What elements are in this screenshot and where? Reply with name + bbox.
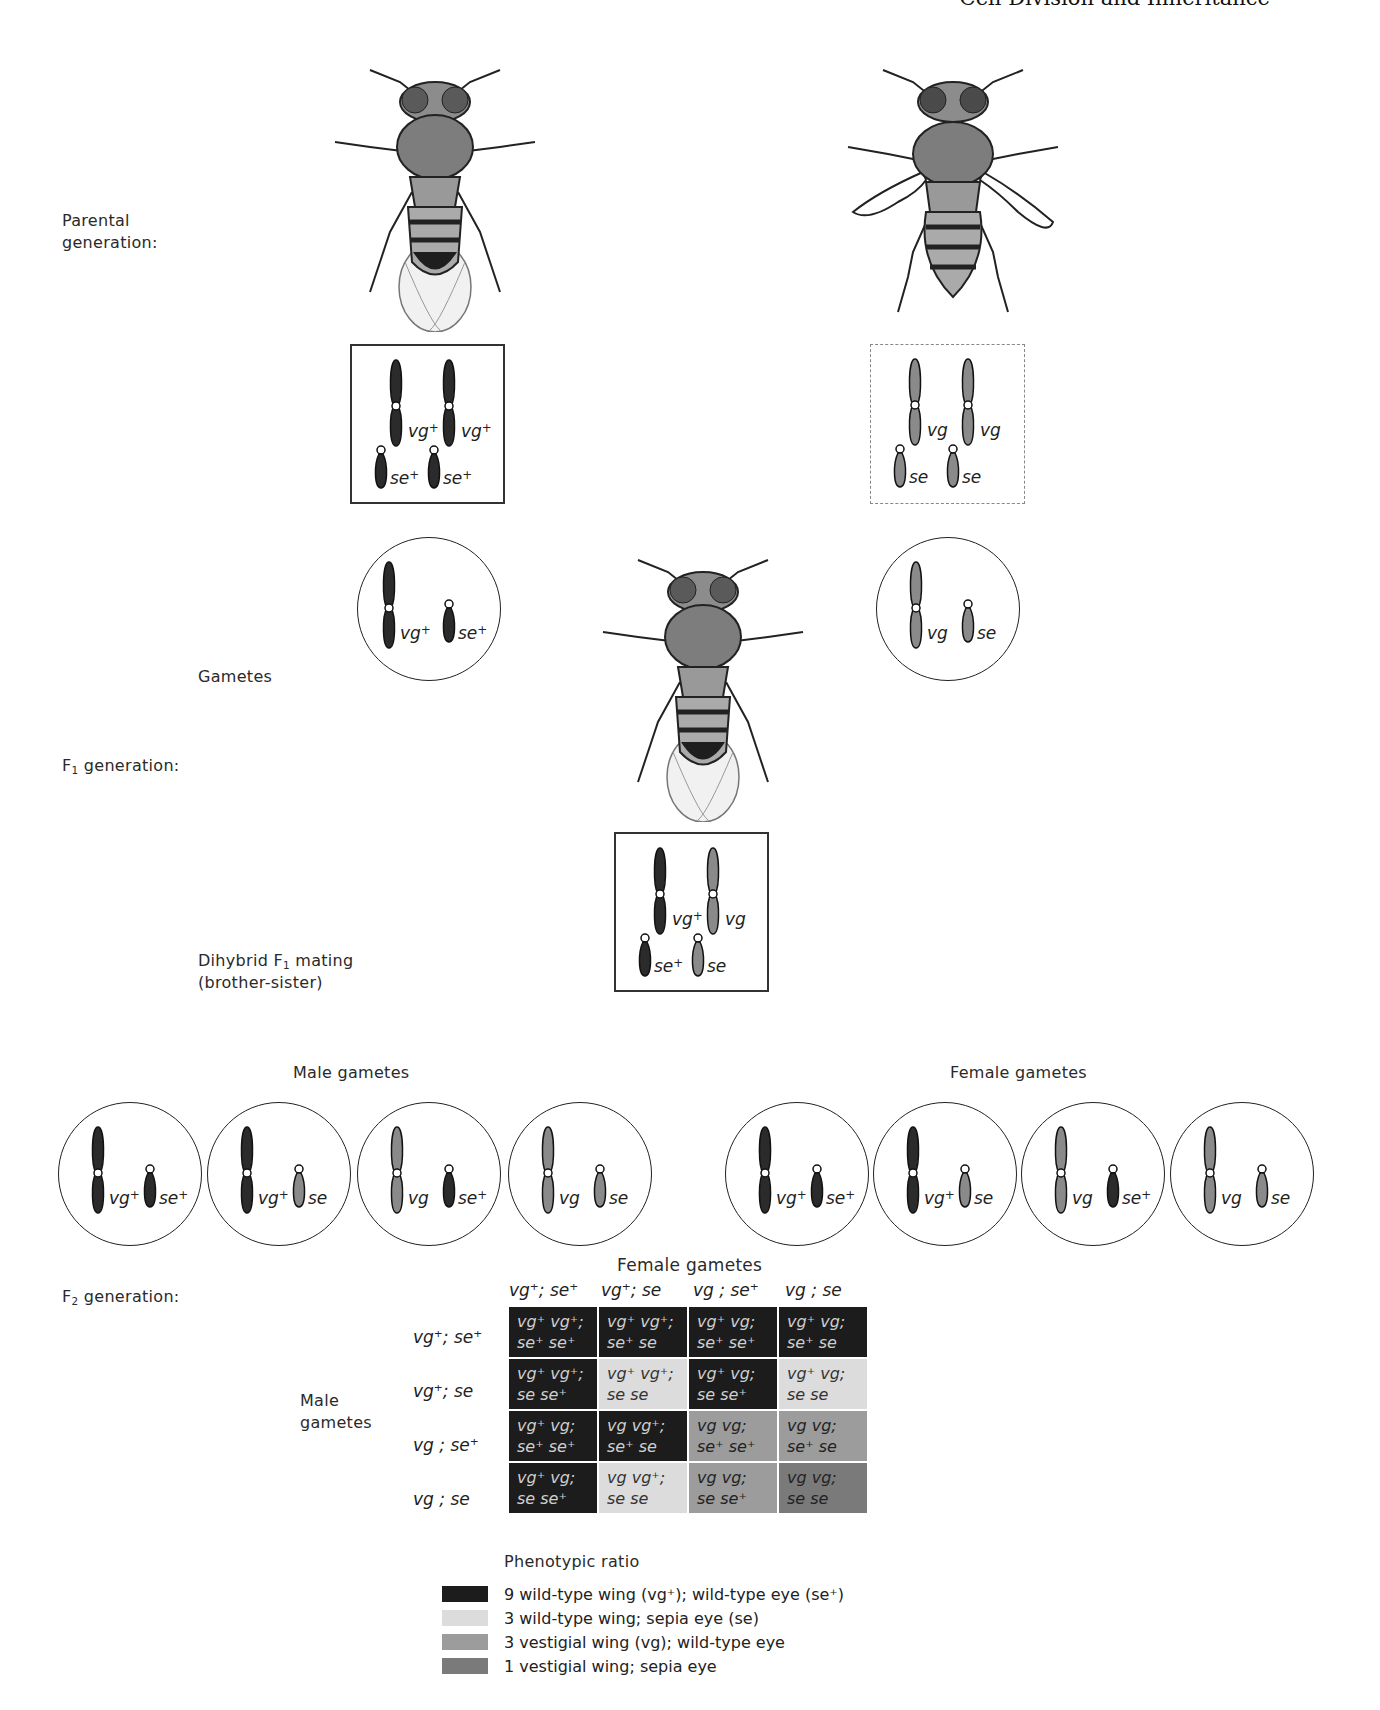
punnett-row: vg⁺ vg;se⁺ se⁺vg vg⁺;se⁺ sevg vg;se⁺ se⁺… [509,1411,867,1461]
allele-label: vg [927,420,948,440]
punnett-cell: vg⁺ vg;se⁺ se⁺ [509,1411,597,1461]
female-gametes-label: Female gametes [950,1062,1087,1084]
allele-label: vg+ [924,1188,955,1208]
right-parent-genotype-box: vg vg se se [870,344,1025,504]
label-line: Male [300,1390,372,1412]
chromosome-icon [358,538,502,682]
allele-sup: + [409,468,419,482]
allele: vg [725,909,746,929]
allele-label: se [962,467,981,487]
allele-label: se [974,1188,993,1208]
legend-text: 1 vestigial wing; sepia eye [504,1657,717,1676]
legend-item: 3 vestigial wing (vg); wild-type eye [442,1632,785,1652]
punnett-cell: vg⁺ vg⁺;se⁺ se [599,1307,687,1357]
gamete-circle: vgse [508,1102,652,1246]
punnett-row-header: vg ; se⁺ [413,1435,479,1455]
page-header: Cell Division and Inheritance [960,0,1270,10]
punnett-cell: vg vg⁺;se⁺ se [599,1411,687,1461]
punnett-column-header: vg⁺; se⁺ [509,1280,578,1300]
label-sub: 1 [283,959,290,971]
chromosome-icon [1171,1103,1315,1247]
allele: vg [400,623,421,643]
legend-text: 9 wild-type wing (vg⁺); wild-type eye (s… [504,1585,844,1604]
label-line: generation: [62,232,158,254]
legend-item: 1 vestigial wing; sepia eye [442,1656,717,1676]
gamete-circle: vg+se+ [725,1102,869,1246]
f2-generation-label: F2 generation: [62,1286,180,1308]
allele: vg [927,623,948,643]
allele-label: vg [408,1188,429,1208]
allele-label: se+ [654,956,683,976]
label-line: Dihybrid F1 mating [198,950,354,972]
punnett-cell: vg⁺ vg⁺;se⁺ se⁺ [509,1307,597,1357]
allele: vg [927,420,948,440]
allele: se [707,956,726,976]
chromosome-icon [1022,1103,1166,1247]
punnett-cell: vg vg;se⁺ se⁺ [689,1411,777,1461]
left-parent-gamete: vg+ se+ [357,537,501,681]
punnett-cell: vg⁺ vg;se⁺ se⁺ [689,1307,777,1357]
allele: vg [408,421,429,441]
punnett-cell: vg⁺ vg⁺;se se [599,1359,687,1409]
allele-label: vg+ [400,623,431,643]
label-part: Dihybrid F [198,951,283,970]
allele-label: se+ [458,1188,487,1208]
wild-type-fly-icon [330,62,540,332]
allele-sup: + [477,623,487,637]
label-part: F [62,756,72,775]
f1-fly-icon [598,552,808,822]
allele-label: se+ [1122,1188,1151,1208]
allele-sup: + [421,623,431,637]
chromosome-icon [877,538,1021,682]
f1-genotype-box: vg+ vg se+ se [614,832,769,992]
right-parent-gamete: vg se [876,537,1020,681]
allele: se [962,467,981,487]
legend-swatch [442,1610,488,1626]
punnett-column-header: vg ; se⁺ [693,1280,759,1300]
allele-label: se+ [826,1188,855,1208]
allele-label: vg+ [672,909,703,929]
allele-label: se [909,467,928,487]
allele-label: se+ [458,623,487,643]
allele: se [654,956,673,976]
allele-label: vg+ [776,1188,807,1208]
chromosome-icon [726,1103,870,1247]
legend-text: 3 wild-type wing; sepia eye (se) [504,1609,759,1628]
allele-sup: + [482,421,492,435]
allele-label: se [707,956,726,976]
punnett-cell: vg vg;se se [779,1463,867,1513]
gamete-circle: vg+se [873,1102,1017,1246]
punnett-cell: vg vg;se se⁺ [689,1463,777,1513]
allele-label: vg+ [109,1188,140,1208]
allele-sup: + [429,421,439,435]
gametes-label: Gametes [198,666,272,688]
punnett-row: vg⁺ vg;se se⁺vg vg⁺;se sevg vg;se se⁺vg … [509,1463,867,1513]
allele-label: se+ [159,1188,188,1208]
punnett-column-header: vg⁺; se [601,1280,661,1300]
allele-label: vg [1072,1188,1093,1208]
vestigial-wing-fly-icon [838,62,1068,322]
label-sub: 2 [72,1295,79,1307]
allele: se [458,623,477,643]
allele-label: se [1271,1188,1290,1208]
punnett-cell: vg vg⁺;se se [599,1463,687,1513]
punnett-cell: vg⁺ vg;se se⁺ [509,1463,597,1513]
punnett-cell: vg⁺ vg;se se⁺ [689,1359,777,1409]
label-line: gametes [300,1412,372,1434]
allele-label: se [977,623,996,643]
allele: se [977,623,996,643]
chromosome-icon [208,1103,352,1247]
label-sub: 1 [72,764,79,776]
punnett-square: vg⁺ vg⁺;se⁺ se⁺vg⁺ vg⁺;se⁺ sevg⁺ vg;se⁺ … [507,1305,869,1515]
allele: se [390,468,409,488]
punnett-row-header: vg ; se [413,1489,470,1509]
allele: se [909,467,928,487]
allele-label: vg [980,420,1001,440]
allele-sup: + [462,468,472,482]
allele-label: vg+ [408,421,439,441]
allele-label: se+ [443,468,472,488]
punnett-cell: vg⁺ vg;se⁺ se [779,1307,867,1357]
punnett-row-header: vg⁺; se⁺ [413,1327,482,1347]
gamete-circle: vg+se+ [58,1102,202,1246]
chromosome-icon [871,345,1026,505]
